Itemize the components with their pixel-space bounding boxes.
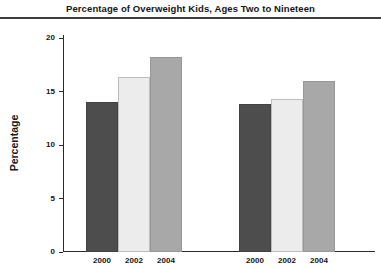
plot-area: 05101520200020022004200020022004 — [63, 38, 375, 252]
y-tick-label: 0 — [31, 247, 55, 257]
y-tick — [59, 252, 63, 253]
y-axis-label: Percentage — [8, 115, 20, 172]
y-tick-label: 10 — [31, 140, 55, 150]
bar-group-1-2000 — [86, 102, 118, 252]
y-tick — [59, 198, 63, 199]
y-tick-label: 15 — [31, 87, 55, 97]
title-divider — [0, 17, 381, 19]
y-tick-label: 5 — [31, 194, 55, 204]
chart-title: Percentage of Overweight Kids, Ages Two … — [0, 3, 381, 14]
y-tick — [59, 91, 63, 92]
y-tick-label: 20 — [31, 33, 55, 43]
bar-group-1-2004 — [150, 57, 182, 252]
bar-group-2-2000 — [239, 104, 271, 252]
bar-group-2-2004 — [303, 81, 335, 252]
x-tick-label: 2004 — [299, 256, 339, 265]
y-tick — [59, 38, 63, 39]
bar-group-2-2002 — [271, 99, 303, 252]
y-axis-line — [63, 35, 64, 252]
y-tick — [59, 145, 63, 146]
x-tick-label: 2004 — [146, 256, 186, 265]
bar-group-1-2002 — [118, 77, 150, 252]
chart-figure: Percentage of Overweight Kids, Ages Two … — [0, 0, 381, 267]
